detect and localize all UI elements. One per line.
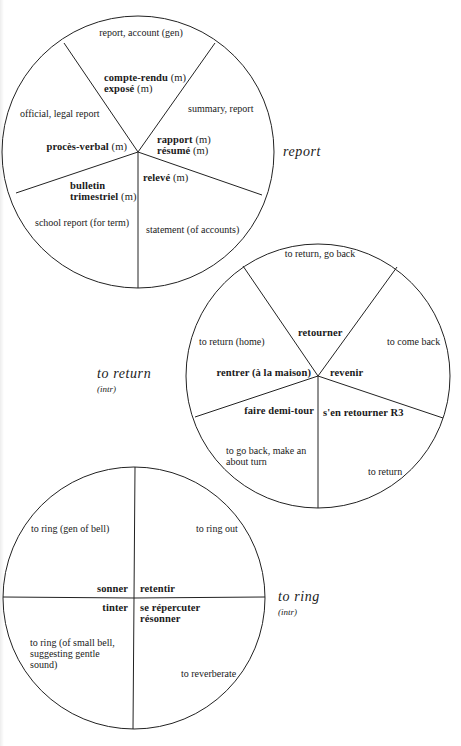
gloss-reverberate: to reverberate [181, 668, 236, 679]
gloss-small-bell-1: to ring (of small bell, [30, 637, 115, 648]
term-proces-verbal: procès-verbal (m) [46, 141, 127, 152]
term-retentir: retentir [140, 583, 175, 594]
gloss-report-account: report, account (gen) [99, 27, 183, 38]
to-ring-divider-3 [134, 597, 265, 598]
gloss-ring-out: to ring out [196, 523, 238, 534]
gloss-school-report: school report (for term) [35, 217, 129, 228]
term-trimestriel: trimestriel (m) [70, 191, 137, 202]
term-resume: résumé (m) [157, 145, 208, 156]
gloss-official: official, legal report [20, 108, 100, 119]
term-compte-rendu: compte-rendu (m) [104, 72, 186, 83]
gloss-go-back-2: about turn [226, 456, 267, 467]
diagram-title-to-ring: to ring [278, 591, 320, 602]
term-tinter: tinter [102, 602, 128, 613]
term-faire-demi-tour: faire demi-tour [244, 405, 314, 416]
report-wheel [2, 16, 274, 288]
diagram-title-to-return: to return [97, 368, 151, 379]
diagram-title-report: report [283, 146, 321, 157]
term-rentrer: rentrer (à la maison) [216, 367, 311, 378]
gloss-return-home: to return (home) [199, 336, 265, 347]
gloss-statement: statement (of accounts) [146, 224, 239, 235]
term-retourner: retourner [298, 327, 342, 338]
gloss-to-return: to return [368, 466, 402, 477]
gloss-ring-gen: to ring (gen of bell) [31, 523, 109, 534]
gloss-summary: summary, report [188, 103, 253, 114]
to-ring-divider-2 [3, 597, 134, 598]
term-revenir: revenir [330, 367, 363, 378]
gloss-come-back: to come back [387, 336, 440, 347]
to-ring-divider-0 [134, 467, 135, 598]
term-expose: exposé (m) [104, 83, 153, 94]
gloss-go-back-1: to go back, make an [226, 445, 306, 456]
to-return-divider-0 [243, 266, 318, 376]
gloss-small-bell-2: suggesting gentle [30, 648, 100, 659]
term-sen-retourner: s'en retourner R3 [323, 407, 404, 418]
term-bulletin: bulletin [70, 180, 105, 191]
term-releve: relevé (m) [143, 172, 188, 183]
diagram-subtitle-intr: (intr) [97, 384, 116, 395]
report-divider-0 [64, 43, 138, 152]
diagram-subtitle-intr: (intr) [278, 607, 297, 618]
to-return-divider-1 [318, 267, 397, 376]
to-ring-divider-1 [133, 598, 134, 729]
term-resonner: résonner [140, 613, 180, 624]
term-se-repercuter: se répercuter [140, 602, 200, 613]
to-ring-wheel [3, 467, 265, 729]
term-rapport: rapport (m) [157, 134, 211, 145]
term-sonner: sonner [97, 583, 128, 594]
gloss-return-go-back: to return, go back [285, 248, 356, 259]
gloss-small-bell-3: sound) [30, 659, 57, 670]
